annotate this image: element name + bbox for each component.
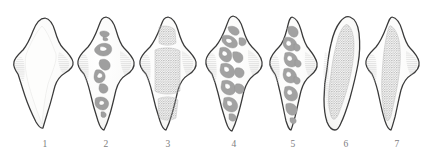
specimen-figure-6 xyxy=(0,0,425,162)
figure-2-body xyxy=(78,17,134,130)
figure-label-3: 3 xyxy=(156,139,180,149)
specimen-figure-2 xyxy=(0,0,425,162)
figure-label-5: 5 xyxy=(281,139,305,149)
figure-3-granular-blocks xyxy=(155,26,180,120)
figure-6-body xyxy=(324,17,360,130)
specimen-figure-5 xyxy=(0,0,425,162)
figure-label-4: 4 xyxy=(222,139,246,149)
figure-label-6: 6 xyxy=(334,139,358,149)
figure-7-stipple-mass xyxy=(382,26,401,121)
specimen-figure-4 xyxy=(0,0,425,162)
figure-3-body xyxy=(140,17,196,130)
figure-5-body xyxy=(270,17,317,130)
specimen-figure-7 xyxy=(0,0,425,162)
specimen-figure-3 xyxy=(0,0,425,162)
specimen-plate: 1 2 3 4 5 6 7 xyxy=(0,0,425,162)
figure-label-1: 1 xyxy=(33,139,57,149)
figure-1-body xyxy=(14,18,73,128)
figure-caption-row: 1 2 3 4 5 6 7 xyxy=(0,0,425,162)
figure-label-7: 7 xyxy=(385,139,409,149)
figure-5-central-chain xyxy=(283,26,301,124)
figure-6-stipple-mass xyxy=(329,25,354,120)
figure-label-2: 2 xyxy=(94,139,118,149)
figure-2-internal-blobs xyxy=(94,31,112,118)
figure-7-body xyxy=(366,17,419,130)
figure-4-branching-structures xyxy=(219,26,246,121)
figure-4-body xyxy=(206,16,262,131)
specimen-figure-1 xyxy=(0,0,425,162)
